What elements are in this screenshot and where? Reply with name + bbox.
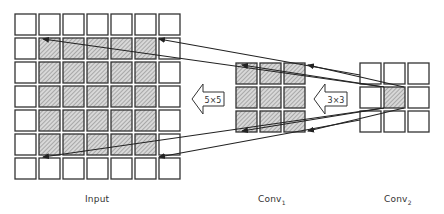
- grid-cell: [159, 134, 180, 155]
- grid-cell: [236, 87, 257, 108]
- grid-cell: [15, 38, 36, 59]
- grid-cell: [87, 62, 108, 83]
- grid-cell: [87, 110, 108, 131]
- grid-cell: [87, 38, 108, 59]
- grid-cell: [15, 110, 36, 131]
- grid-cell: [15, 86, 36, 107]
- grid-cell: [384, 87, 405, 108]
- grid-cell: [408, 63, 429, 84]
- grid-cell: [408, 111, 429, 132]
- grid-cell: [39, 158, 60, 179]
- conv2-grid: [360, 63, 429, 132]
- grid-cell: [135, 134, 156, 155]
- grid-cell: [63, 38, 84, 59]
- grid-cell: [87, 86, 108, 107]
- grid-cell: [260, 63, 281, 84]
- grid-cell: [159, 14, 180, 35]
- grid-cell: [135, 110, 156, 131]
- grid-cell: [39, 14, 60, 35]
- grid-cell: [159, 110, 180, 131]
- grid-cell: [39, 62, 60, 83]
- grid-cell: [135, 86, 156, 107]
- grid-cell: [260, 87, 281, 108]
- grid-cell: [15, 62, 36, 83]
- grid-cell: [159, 158, 180, 179]
- grid-cell: [39, 110, 60, 131]
- conv2-label: Conv2: [384, 194, 412, 206]
- svg-text:3×3: 3×3: [328, 96, 345, 105]
- grid-cell: [63, 86, 84, 107]
- grid-cell: [384, 111, 405, 132]
- arrow-3x3: 3×3: [314, 84, 347, 114]
- input-label: Input: [85, 194, 109, 204]
- grid-cell: [15, 14, 36, 35]
- grid-cell: [360, 87, 381, 108]
- grid-cell: [408, 87, 429, 108]
- grid-cell: [111, 62, 132, 83]
- grid-cell: [63, 14, 84, 35]
- grid-cell: [15, 134, 36, 155]
- grid-cell: [63, 110, 84, 131]
- grid-cell: [135, 14, 156, 35]
- grid-cell: [135, 62, 156, 83]
- receptive-field-diagram: 5×5 3×3: [0, 0, 444, 214]
- grid-cell: [384, 63, 405, 84]
- grid-cell: [87, 134, 108, 155]
- grid-cell: [15, 158, 36, 179]
- arrow-5x5: 5×5: [192, 84, 224, 114]
- grid-cell: [260, 111, 281, 132]
- grid-cell: [135, 158, 156, 179]
- input-grid: [15, 14, 180, 179]
- grid-cell: [63, 158, 84, 179]
- grid-cell: [111, 158, 132, 179]
- grid-cell: [87, 14, 108, 35]
- grid-cell: [284, 87, 305, 108]
- grid-cell: [135, 38, 156, 59]
- grid-cell: [111, 110, 132, 131]
- grid-cell: [87, 158, 108, 179]
- grid-cell: [159, 62, 180, 83]
- conv1-label: Conv1: [258, 194, 286, 206]
- grid-cell: [159, 86, 180, 107]
- grid-cell: [39, 86, 60, 107]
- grid-cell: [111, 86, 132, 107]
- grid-cell: [111, 14, 132, 35]
- svg-text:5×5: 5×5: [205, 96, 222, 105]
- grid-cell: [39, 134, 60, 155]
- grid-cell: [63, 62, 84, 83]
